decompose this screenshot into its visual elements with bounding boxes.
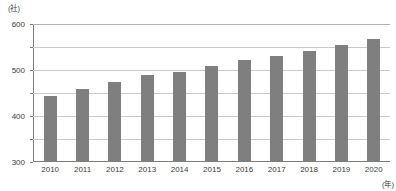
bar [76,89,89,161]
bar [44,96,57,161]
bar-slot: 2014 [163,24,195,161]
y-axis-tick-label: 400 [12,112,25,121]
bar [173,72,186,161]
bar [141,75,154,161]
bar-slot: 2016 [228,24,260,161]
x-axis-tick-label: 2016 [235,165,253,174]
bar [238,60,251,161]
bar-slot: 2020 [358,24,390,161]
x-axis-unit-label: (年) [382,178,394,189]
y-axis-tick: 400 [30,70,33,71]
bar-slot: 2013 [131,24,163,161]
bar-chart: (社) 6005004003002001000 2010201120122013… [0,0,396,191]
x-axis-tick-label: 2014 [171,165,189,174]
x-axis-tick-label: 2020 [365,165,383,174]
y-axis-tick: 500 [30,47,33,48]
bar [335,45,348,161]
x-axis-tick-label: 2010 [41,165,59,174]
x-axis-tick-label: 2018 [300,165,318,174]
y-axis-tick-label: 300 [12,158,25,167]
y-axis-tick-label: 500 [12,66,25,75]
bar [303,51,316,161]
bar-slot: 2011 [66,24,98,161]
y-axis-tick-label: 600 [12,20,25,29]
bar-slot: 2018 [293,24,325,161]
bar [205,66,218,161]
bar-series: 2010201120122013201420152016201720182019… [34,24,390,161]
bar-slot: 2012 [99,24,131,161]
bar [367,39,380,161]
x-axis-tick-label: 2011 [74,165,91,174]
bar-slot: 2015 [196,24,228,161]
bar [108,82,121,161]
x-axis-tick-label: 2019 [333,165,351,174]
y-axis-tick: 200 [30,116,33,117]
bar-slot: 2019 [325,24,357,161]
x-axis-tick-label: 2015 [203,165,221,174]
bar-slot: 2017 [261,24,293,161]
plot-area: 6005004003002001000 20102011201220132014… [33,24,390,162]
y-axis-tick: 0 [30,162,33,163]
x-axis-tick-label: 2013 [138,165,156,174]
y-axis-tick: 600 [30,24,33,25]
bar [270,56,283,161]
x-axis-tick-label: 2012 [106,165,124,174]
y-axis-tick: 300 [30,93,33,94]
x-axis-line [33,161,390,162]
x-axis-tick-label: 2017 [268,165,286,174]
y-axis-unit-label: (社) [8,2,20,13]
y-axis-tick: 100 [30,139,33,140]
bar-slot: 2010 [34,24,66,161]
